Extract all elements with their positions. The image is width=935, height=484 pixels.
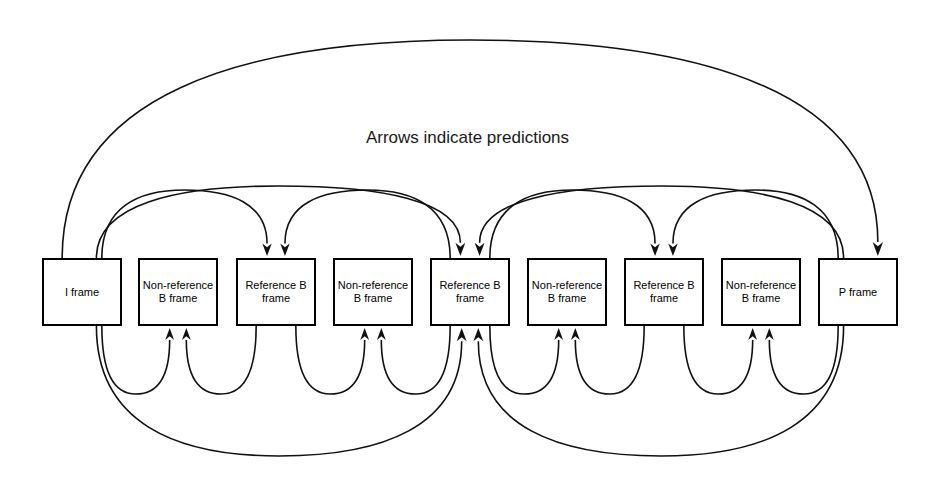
arrow-head	[280, 243, 289, 256]
arrow-head	[554, 328, 563, 340]
frame-box-label: Non-reference B frame	[724, 279, 798, 305]
frame-box-label: Reference B frame	[631, 279, 696, 305]
frame-box-ref-b[interactable]: Reference B frame	[624, 258, 704, 326]
prediction-arc	[684, 326, 753, 394]
frame-box-non-ref-b[interactable]: Non-reference B frame	[333, 258, 413, 326]
arrow-head	[262, 243, 271, 256]
prediction-arcs	[62, 40, 878, 456]
arrow-head	[668, 243, 677, 256]
arrow-head	[182, 328, 191, 340]
prediction-arc	[102, 190, 267, 258]
frame-box-label: Non-reference B frame	[141, 279, 215, 305]
arrow-head	[165, 328, 174, 340]
prediction-arc	[381, 326, 450, 394]
frame-box-non-ref-b[interactable]: Non-reference B frame	[721, 258, 801, 326]
arrow-head	[650, 243, 659, 256]
frame-box-i[interactable]: I frame	[42, 258, 122, 326]
frame-box-label: P frame	[837, 286, 879, 299]
prediction-arc	[769, 326, 838, 394]
diagram-caption: Arrows indicate predictions	[0, 128, 935, 148]
prediction-structure-diagram: Arrows indicate predictions I frameNon-r…	[0, 0, 935, 484]
frame-box-label: I frame	[63, 286, 101, 299]
arrow-head	[360, 328, 369, 340]
arrow-head	[873, 242, 883, 256]
frame-box-non-ref-b[interactable]: Non-reference B frame	[527, 258, 607, 326]
frame-box-label: Non-reference B frame	[336, 279, 410, 305]
arrow-head	[377, 328, 386, 340]
arrow-head	[455, 243, 465, 256]
prediction-arc	[480, 186, 844, 258]
arrow-layer	[0, 0, 935, 484]
prediction-arc	[186, 326, 256, 394]
prediction-arc	[490, 326, 559, 394]
frame-box-ref-b[interactable]: Reference B frame	[430, 258, 510, 326]
frame-box-label: Reference B frame	[243, 279, 308, 305]
prediction-arc	[102, 326, 170, 394]
frame-box-ref-b[interactable]: Reference B frame	[236, 258, 316, 326]
prediction-arc	[575, 326, 644, 394]
prediction-arc	[96, 186, 460, 258]
arrow-head	[748, 328, 757, 340]
prediction-arc	[673, 190, 838, 258]
arrow-head	[473, 328, 483, 341]
prediction-arc	[490, 190, 655, 258]
arrow-head	[765, 328, 774, 340]
arrow-head	[571, 328, 580, 340]
arrow-head	[457, 328, 467, 341]
frame-box-p[interactable]: P frame	[818, 258, 898, 326]
arrow-head	[475, 243, 485, 256]
prediction-arc	[285, 190, 450, 258]
frame-box-label: Reference B frame	[437, 279, 502, 305]
frame-box-non-ref-b[interactable]: Non-reference B frame	[138, 258, 218, 326]
prediction-arc	[296, 326, 365, 394]
frame-box-label: Non-reference B frame	[530, 279, 604, 305]
prediction-arc	[62, 40, 878, 258]
